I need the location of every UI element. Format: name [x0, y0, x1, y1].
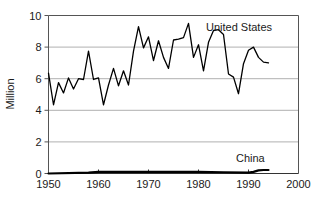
y-tick-label: 4: [35, 104, 41, 116]
x-tick-label: 1990: [236, 178, 260, 190]
series-label-china: China: [236, 152, 266, 164]
x-tick-label: 1980: [186, 178, 210, 190]
x-tick-label: 1960: [86, 178, 110, 190]
x-tick-label: 1950: [36, 178, 60, 190]
x-tick-label: 2000: [286, 178, 310, 190]
y-axis-title: Million: [4, 78, 16, 109]
y-tick-label: 2: [35, 136, 41, 148]
y-tick-label: 8: [35, 41, 41, 53]
y-tick-label: 6: [35, 73, 41, 85]
chart-figure: 0246810 195019601970198019902000 United …: [0, 0, 331, 202]
line-chart: 0246810 195019601970198019902000 United …: [0, 0, 331, 202]
x-tick-label: 1970: [136, 178, 160, 190]
series-label-united-states: United States: [206, 21, 273, 33]
y-tick-label: 10: [29, 10, 41, 22]
